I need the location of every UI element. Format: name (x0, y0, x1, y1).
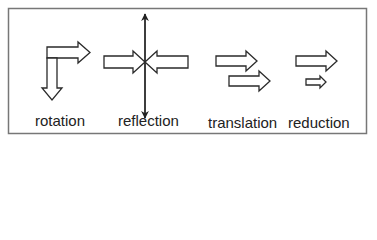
rotation-label: rotation (35, 112, 85, 129)
reflection-label: reflection (118, 112, 179, 129)
reduction-label: reduction (288, 114, 350, 131)
translation-label: translation (208, 114, 277, 131)
